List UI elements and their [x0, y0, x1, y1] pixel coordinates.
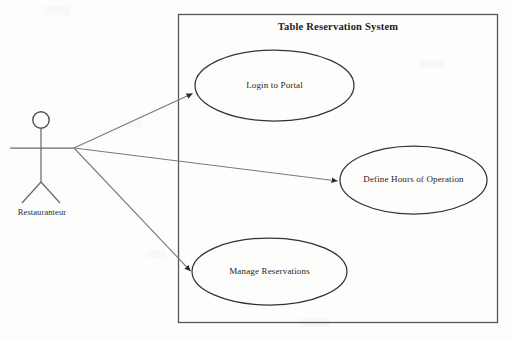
use-case-label-manage-reservations: Manage Reservations	[192, 267, 347, 276]
actor-leg-left	[22, 182, 41, 203]
association-restauranteur-to-manage-reservations[interactable]	[74, 148, 191, 271]
use-case-label-login-to-portal: Login to Portal	[195, 81, 354, 90]
actor-head-icon	[33, 112, 49, 128]
actor-label-restauranteur: Restauranteur	[0, 208, 84, 217]
association-restauranteur-to-login[interactable]	[74, 94, 193, 148]
use-case-diagram-canvas: Table Reservation System Login to Portal…	[0, 0, 512, 340]
association-lines	[74, 94, 338, 271]
diagram-vector-layer	[0, 0, 512, 340]
system-boundary-title: Table Reservation System	[178, 22, 498, 33]
use-case-label-define-hours-of-operation: Define Hours of Operation	[340, 175, 487, 184]
association-restauranteur-to-define-hours[interactable]	[74, 148, 338, 181]
actor-restauranteur-figure	[10, 112, 74, 203]
system-boundary-box	[179, 15, 498, 323]
actor-leg-right	[41, 182, 60, 203]
